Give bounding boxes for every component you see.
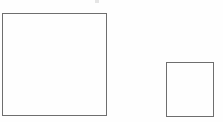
small-square-shape[interactable]: Small square	[166, 62, 214, 117]
diagram-canvas: Two squares outline diagram Large square…	[0, 0, 223, 122]
scan-speck-artifact	[95, 0, 99, 3]
large-square-label: Large square	[2, 13, 3, 14]
small-square-label: Small square	[166, 62, 167, 63]
large-square-shape[interactable]: Large square	[2, 13, 107, 116]
